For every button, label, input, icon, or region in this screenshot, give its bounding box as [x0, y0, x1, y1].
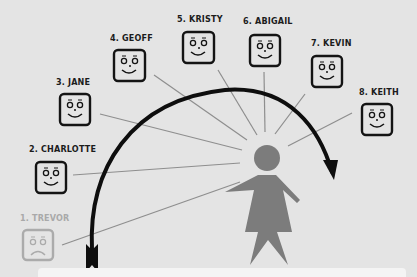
- label-trevor: 1. TREVOR: [20, 212, 69, 223]
- label-charlotte: 2. CHARLOTTE: [29, 143, 96, 154]
- face-abigail: [250, 35, 280, 66]
- arrowhead-icon: [323, 160, 338, 180]
- ray-charlotte: [73, 163, 240, 175]
- ray-trevor: [62, 182, 240, 245]
- face-jane: [60, 94, 90, 125]
- label-kevin: 7. KEVIN: [311, 37, 352, 48]
- connection-rays: [62, 70, 352, 245]
- label-jane: 3. JANE: [56, 76, 90, 87]
- label-keith: 8. KEITH: [359, 86, 399, 97]
- ray-kristy: [218, 70, 257, 135]
- curved-arrow: [86, 90, 338, 272]
- face-charlotte: [36, 162, 66, 193]
- face-geoff: [114, 50, 145, 81]
- bottom-panel-edge: [38, 268, 406, 277]
- label-kristy: 5. KRISTY: [177, 13, 223, 24]
- label-abigail: 6. ABIGAIL: [243, 15, 293, 26]
- diagram-graphics: [0, 0, 417, 277]
- face-kristy: [183, 32, 214, 63]
- face-trevor: [23, 230, 53, 260]
- face-keith: [362, 104, 392, 135]
- diagram-canvas: 1. TREVOR 2. CHARLOTTE 3. JANE 4. GEOFF …: [0, 0, 417, 277]
- face-kevin: [312, 56, 342, 87]
- label-geoff: 4. GEOFF: [110, 32, 153, 43]
- ray-abigail: [264, 72, 265, 132]
